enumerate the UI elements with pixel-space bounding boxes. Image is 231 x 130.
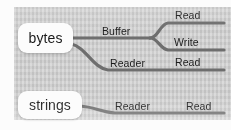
branch-line-bytes-reader <box>71 44 224 70</box>
node-strings[interactable]: strings <box>18 91 82 119</box>
edge-label-buffer-write: Write <box>174 36 199 48</box>
edge-label-bytes-reader: Reader <box>110 57 145 69</box>
diagram-canvas: bytes strings Buffer Read Write Reader R… <box>0 0 231 130</box>
edge-label-buffer-read: Read <box>175 9 201 21</box>
edge-label-buffer: Buffer <box>102 25 130 37</box>
edge-label-strings-reader-read: Read <box>186 100 212 112</box>
node-bytes[interactable]: bytes <box>18 23 73 53</box>
edge-label-strings-reader: Reader <box>115 100 150 112</box>
node-strings-label: strings <box>29 97 71 113</box>
edge-label-bytes-reader-read: Read <box>175 56 201 68</box>
node-bytes-label: bytes <box>29 30 63 46</box>
